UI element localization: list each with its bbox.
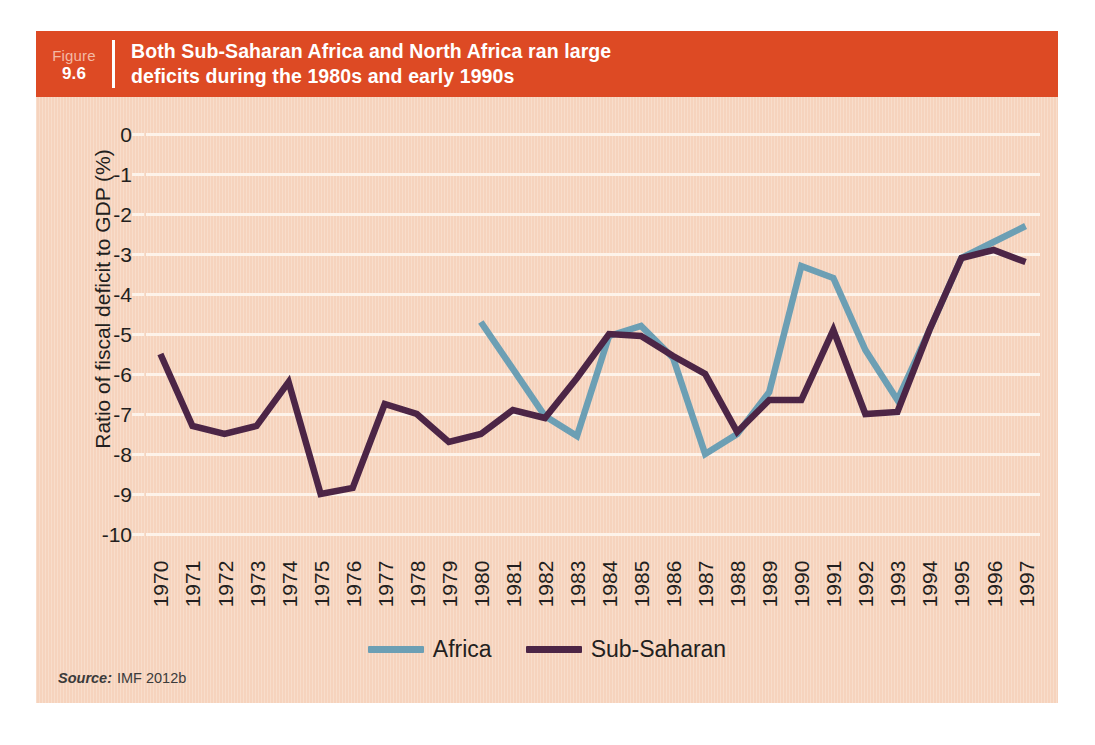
series-line-sub-saharan	[160, 250, 1025, 494]
x-axis-tick-label: 1970	[149, 540, 171, 630]
y-axis-tick-label: -3	[72, 244, 132, 265]
x-axis-tick-label: 1990	[790, 540, 812, 630]
figure-number-block: Figure 9.6	[36, 31, 112, 97]
source-prefix: Source:	[58, 670, 112, 686]
series-lines	[146, 134, 1040, 534]
x-axis-tick-label: 1973	[246, 540, 268, 630]
x-axis-tick-label: 1980	[470, 540, 492, 630]
y-axis-tick-label: -7	[72, 404, 132, 425]
x-axis-tick-label: 1987	[694, 540, 716, 630]
x-axis-tick-label: 1985	[630, 540, 652, 630]
x-axis-tick-label: 1976	[342, 540, 364, 630]
source-text: IMF 2012b	[117, 670, 186, 686]
x-axis-tick-label: 1989	[758, 540, 780, 630]
x-axis-tick-label: 1981	[502, 540, 524, 630]
figure-label: Figure	[52, 47, 96, 64]
x-axis-tick-label: 1982	[534, 540, 556, 630]
legend-label: Sub-Saharan	[591, 638, 727, 661]
y-axis-tick	[132, 253, 144, 256]
y-axis-tick	[132, 533, 144, 536]
x-axis-tick-label: 1984	[598, 540, 620, 630]
y-axis-tick-label: -2	[72, 204, 132, 225]
y-axis-tick	[132, 373, 144, 376]
legend-item-africa[interactable]: Africa	[368, 638, 492, 661]
x-axis-tick-label: 1991	[822, 540, 844, 630]
y-axis-tick-label: -4	[72, 284, 132, 305]
y-axis-tick-label: -6	[72, 364, 132, 385]
figure-header: Figure 9.6 Both Sub-Saharan Africa and N…	[36, 31, 1058, 97]
x-axis-tick-label: 1977	[374, 540, 396, 630]
y-axis-tick	[132, 493, 144, 496]
y-axis-tick-label: -5	[72, 324, 132, 345]
y-axis-tick-label: -1	[72, 164, 132, 185]
figure-title: Both Sub-Saharan Africa and North Africa…	[115, 31, 1058, 97]
source-note: Source:IMF 2012b	[58, 670, 186, 686]
figure-number: 9.6	[62, 64, 86, 84]
plot-area	[146, 134, 1040, 534]
y-axis-tick	[132, 173, 144, 176]
x-axis-tick-label: 1997	[1015, 540, 1037, 630]
x-axis-tick-label: 1972	[214, 540, 236, 630]
y-axis-tick	[132, 133, 144, 136]
x-axis-tick-label: 1986	[662, 540, 684, 630]
figure-container: Figure 9.6 Both Sub-Saharan Africa and N…	[0, 0, 1095, 745]
x-axis-tick-label: 1992	[854, 540, 876, 630]
x-axis-tick-label: 1971	[181, 540, 203, 630]
y-axis-labels: 0-1-2-3-4-5-6-7-8-9-10	[68, 134, 132, 534]
x-axis-tick-label: 1994	[918, 540, 940, 630]
x-axis-labels: 1970197119721973197419751976197719781979…	[146, 540, 1040, 636]
figure-title-line-2: deficits during the 1980s and early 1990…	[131, 64, 1058, 89]
x-axis-tick-label: 1983	[566, 540, 588, 630]
y-axis-tick-label: 0	[72, 124, 132, 145]
y-axis-tick	[132, 413, 144, 416]
x-axis-tick-label: 1988	[726, 540, 748, 630]
chart-panel: Ratio of fiscal deficit to GDP (%) 0-1-2…	[36, 97, 1058, 703]
chart-legend: AfricaSub-Saharan	[36, 638, 1058, 661]
y-axis-tick	[132, 293, 144, 296]
legend-item-sub-saharan[interactable]: Sub-Saharan	[526, 638, 727, 661]
x-axis-tick-label: 1979	[438, 540, 460, 630]
y-axis-tick-label: -8	[72, 444, 132, 465]
x-axis-tick-label: 1975	[310, 540, 332, 630]
x-axis-tick-label: 1978	[406, 540, 428, 630]
y-axis-tick-label: -9	[72, 484, 132, 505]
x-axis-tick-label: 1995	[950, 540, 972, 630]
y-axis-tick	[132, 333, 144, 336]
x-axis-tick-label: 1996	[983, 540, 1005, 630]
figure-title-line-1: Both Sub-Saharan Africa and North Africa…	[131, 39, 1058, 64]
legend-swatch	[368, 646, 424, 653]
legend-swatch	[526, 646, 582, 653]
x-axis-tick-label: 1993	[886, 540, 908, 630]
y-axis-tick	[132, 213, 144, 216]
y-axis-tick	[132, 453, 144, 456]
y-axis-tick-label: -10	[72, 524, 132, 545]
x-axis-tick-label: 1974	[278, 540, 300, 630]
legend-label: Africa	[433, 638, 492, 661]
